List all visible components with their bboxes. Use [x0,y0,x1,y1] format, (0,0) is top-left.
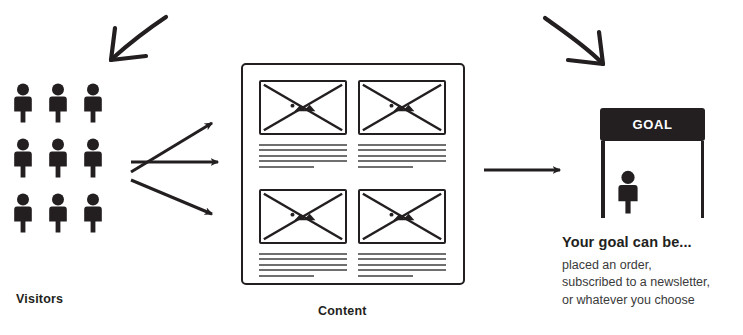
person-icon [12,138,34,178]
person-icon [12,83,34,123]
text-line [259,155,347,157]
goal-example-2: subscribed to a newsletter, [562,274,742,292]
goal-example-3: or whatever you choose [562,292,742,310]
text-line [259,258,347,260]
text-line [358,155,446,157]
text-line [259,269,347,271]
person-icon [82,138,104,178]
text-line [259,253,347,255]
goal-banner: GOAL [600,108,705,141]
text-line [358,160,446,162]
goal-examples: placed an order, subscribed to a newslet… [562,257,742,310]
text-line [259,166,314,168]
text-line [358,144,446,146]
image-placeholder-icon [259,189,347,244]
image-placeholder-icon [358,189,446,244]
content-card [259,189,347,280]
content-card-lines [358,144,446,168]
content-card [358,189,446,280]
text-line [358,269,446,271]
content-caption: Content [318,304,367,318]
person-icon [82,193,104,233]
content-card [259,80,347,171]
goal-heading: Your goal can be... [562,234,742,251]
text-line [259,149,347,151]
goal-example-1: placed an order, [562,257,742,275]
visitors-group [12,83,112,233]
text-line [358,253,446,255]
goal-post-right [701,141,705,218]
image-placeholder-icon [259,80,347,135]
text-line [259,264,347,266]
person-icon [616,170,640,214]
text-line [358,166,413,168]
text-line [259,144,347,146]
person-icon [47,83,69,123]
hand-drawn-arrow-down-left-icon [111,17,166,60]
content-card [358,80,446,171]
content-card-lines [358,253,446,277]
text-line [358,275,413,277]
text-line [259,160,347,162]
content-card-lines [259,253,347,277]
visitors-caption: Visitors [16,292,63,306]
hand-drawn-arrow-down-right-icon [545,18,603,64]
goal-post-left [601,141,605,218]
text-line [358,149,446,151]
image-placeholder-icon [358,80,446,135]
arrow-up-right [131,123,212,172]
person-icon [82,83,104,123]
text-line [358,258,446,260]
content-panel [241,63,465,285]
diagram-canvas: Visitors [0,0,743,335]
arrow-down-right [131,180,212,214]
goal-description: Your goal can be... placed an order, sub… [562,234,742,310]
text-line [358,264,446,266]
person-icon [47,193,69,233]
goal-gate: GOAL [600,108,705,218]
goal-banner-label: GOAL [633,117,673,132]
person-icon [47,138,69,178]
content-card-lines [259,144,347,168]
person-icon [12,193,34,233]
text-line [259,275,314,277]
